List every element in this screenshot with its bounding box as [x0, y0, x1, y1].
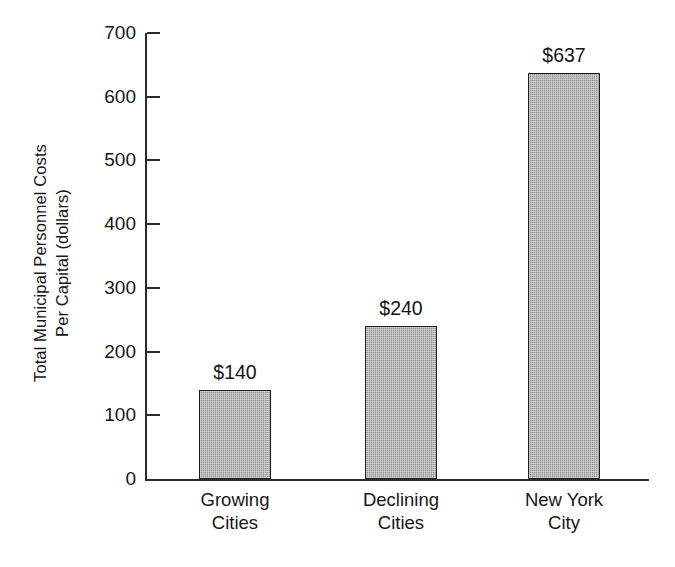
- x-axis-category-label-line-2: City: [484, 512, 644, 535]
- x-axis-category-label-line-2: Cities: [321, 512, 481, 535]
- y-axis-tick-label: 600: [84, 87, 136, 106]
- y-axis-tick-label: 700: [84, 23, 136, 42]
- x-axis-category-label: GrowingCities: [155, 489, 315, 534]
- x-axis-category-label: New YorkCity: [484, 489, 644, 534]
- bar-value-label: $240: [341, 299, 461, 319]
- y-axis-tick-label: 300: [84, 278, 136, 297]
- y-axis-tick: [147, 159, 160, 161]
- bar: [199, 390, 271, 479]
- bar: [365, 326, 437, 479]
- bar-value-label: $637: [504, 46, 624, 66]
- y-axis-tick: [147, 223, 160, 225]
- y-axis-tick: [147, 32, 160, 34]
- x-axis-category-label-line-1: Growing: [201, 489, 270, 510]
- y-axis-tick: [147, 351, 160, 353]
- bar-chart: Total Municipal Personnel Costs Per Capi…: [0, 0, 675, 567]
- y-axis-tick-label: 100: [84, 405, 136, 424]
- y-axis-title: Total Municipal Personnel Costs Per Capi…: [18, 38, 86, 488]
- bar-value-label: $140: [175, 363, 295, 383]
- bar: [528, 73, 600, 479]
- y-axis-title-line-2: Per Capital (dollars): [52, 144, 74, 382]
- x-axis-category-label-line-1: New York: [525, 489, 603, 510]
- y-axis-tick: [147, 96, 160, 98]
- y-axis-tick: [147, 287, 160, 289]
- y-axis-tick-label: 0: [84, 469, 136, 488]
- y-axis-title-line-1: Total Municipal Personnel Costs: [31, 144, 49, 382]
- y-axis-tick-label: 500: [84, 150, 136, 169]
- y-axis-tick-label: 200: [84, 342, 136, 361]
- x-axis-line: [145, 479, 649, 481]
- x-axis-category-label: DecliningCities: [321, 489, 481, 534]
- y-axis-tick-label: 400: [84, 214, 136, 233]
- x-axis-category-label-line-1: Declining: [363, 489, 439, 510]
- x-axis-category-label-line-2: Cities: [155, 512, 315, 535]
- y-axis-tick: [147, 414, 160, 416]
